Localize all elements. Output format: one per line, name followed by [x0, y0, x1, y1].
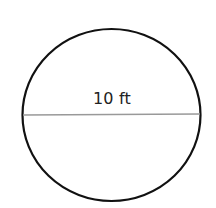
- diameter-label: 10 ft: [0, 89, 216, 108]
- diameter-line: [23, 114, 200, 115]
